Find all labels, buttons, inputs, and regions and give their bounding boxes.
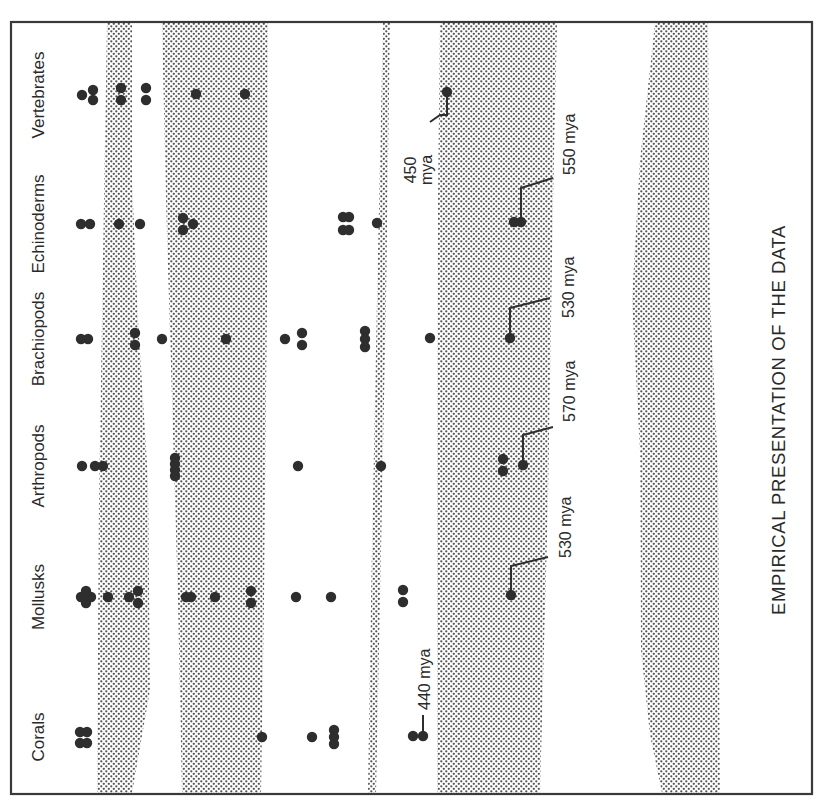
- data-point: [246, 586, 256, 596]
- figure-title: EMPIRICAL PRESENTATION OF THE DATA: [768, 225, 789, 615]
- data-point: [133, 586, 143, 596]
- data-point: [157, 334, 167, 344]
- data-point: [88, 95, 98, 105]
- group-label-brachiopods: Brachiopods: [29, 292, 48, 387]
- group-labels: VertebratesEchinodermsBrachiopodsArthrop…: [29, 52, 48, 762]
- data-point: [186, 592, 196, 602]
- data-point: [77, 90, 87, 100]
- data-point: [293, 461, 303, 471]
- data-point: [221, 334, 231, 344]
- stippled-band: [162, 23, 268, 793]
- data-point: [130, 328, 140, 338]
- data-point: [297, 340, 307, 350]
- stippled-band: [632, 23, 720, 793]
- data-point: [408, 731, 418, 741]
- data-point: [188, 219, 198, 229]
- data-point: [307, 732, 317, 742]
- group-label-vertebrates: Vertebrates: [29, 52, 48, 139]
- data-point: [116, 95, 126, 105]
- data-point: [344, 212, 354, 222]
- data-point: [98, 461, 108, 471]
- data-point: [88, 85, 98, 95]
- data-point: [141, 83, 151, 93]
- annotation-label: 440 mya: [416, 649, 433, 710]
- data-point: [326, 592, 336, 602]
- annotation-label: 530 mya: [557, 497, 574, 558]
- data-point: [170, 471, 180, 481]
- empirical-presentation-figure: 450mya550 mya530 mya570 mya530 mya440 my…: [0, 0, 822, 812]
- data-point: [425, 333, 435, 343]
- data-point: [86, 592, 96, 602]
- data-point: [85, 219, 95, 229]
- data-point: [77, 461, 87, 471]
- data-point: [257, 732, 267, 742]
- data-point: [498, 454, 508, 464]
- data-point: [103, 592, 113, 602]
- data-point: [240, 89, 250, 99]
- data-point: [360, 342, 370, 352]
- data-point: [372, 218, 382, 228]
- annotation-label: 550 mya: [561, 114, 578, 175]
- data-point: [82, 738, 92, 748]
- data-point: [498, 466, 508, 476]
- data-point: [178, 213, 188, 223]
- data-point: [76, 219, 86, 229]
- data-point: [116, 83, 126, 93]
- data-point: [130, 340, 140, 350]
- annotation-label: 530 mya: [560, 257, 577, 318]
- stippled-band: [437, 23, 557, 793]
- stippled-band: [368, 23, 390, 793]
- data-point: [398, 585, 408, 595]
- data-point: [297, 328, 307, 338]
- group-label-arthropods: Arthropods: [29, 424, 48, 507]
- stippled-bands: [97, 23, 720, 793]
- data-point: [141, 95, 151, 105]
- data-point: [114, 219, 124, 229]
- data-point: [133, 598, 143, 608]
- group-label-echinoderms: Echinoderms: [29, 174, 48, 273]
- data-point: [191, 89, 201, 99]
- data-point: [398, 597, 408, 607]
- data-point: [376, 461, 386, 471]
- data-point: [329, 739, 339, 749]
- annotation-label-unit: mya: [418, 155, 435, 185]
- data-point: [135, 219, 145, 229]
- annotation-label: 450: [402, 157, 419, 184]
- data-point: [280, 334, 290, 344]
- stippled-band: [97, 23, 150, 793]
- group-label-corals: Corals: [29, 712, 48, 761]
- data-point: [83, 334, 93, 344]
- data-point: [82, 727, 92, 737]
- data-point: [344, 225, 354, 235]
- group-label-mollusks: Mollusks: [29, 564, 48, 630]
- data-point: [124, 592, 134, 602]
- data-point: [291, 592, 301, 602]
- date-annotation: 440 mya: [416, 649, 433, 736]
- data-point: [246, 598, 256, 608]
- annotation-label: 570 mya: [561, 361, 578, 422]
- data-point: [210, 592, 220, 602]
- data-point: [178, 225, 188, 235]
